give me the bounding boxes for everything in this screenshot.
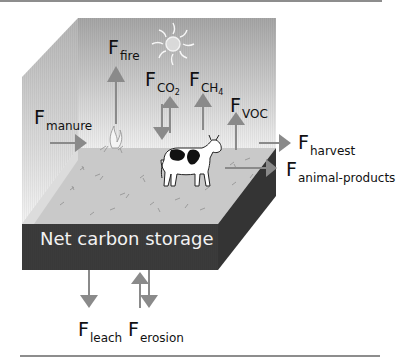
flux-voc-label: FVOC xyxy=(230,96,268,120)
net-carbon-storage-label: Net carbon storage xyxy=(40,230,214,248)
flux-harvest-label: Fharvest xyxy=(298,133,355,157)
flux-fire-label: Ffire xyxy=(108,38,140,62)
flux-ch4-label: FCH4 xyxy=(189,70,223,97)
flux-co2-label: FCO2 xyxy=(145,70,180,97)
flux-animal-products-label: Fanimal-products xyxy=(286,160,395,184)
flux-manure-label: Fmanure xyxy=(34,108,92,132)
flux-erosion-label: Ferosion xyxy=(128,320,184,344)
flux-leach-label: Fleach xyxy=(78,320,122,344)
